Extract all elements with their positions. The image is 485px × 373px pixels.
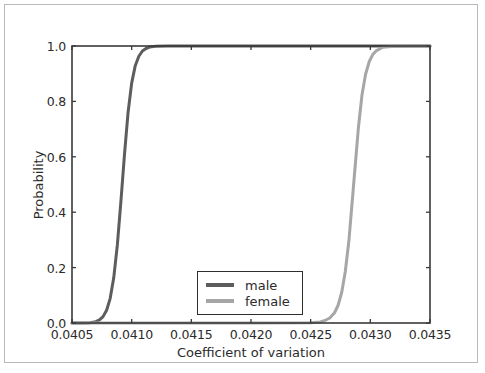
x-tick-label: 0.0435 xyxy=(409,327,452,342)
y-tick-label: 0.8 xyxy=(26,94,66,109)
x-axis-label: Coefficient of variation xyxy=(177,345,325,360)
legend-swatch-male xyxy=(206,283,234,287)
chart-plot-canvas xyxy=(0,0,485,373)
x-tick-label: 0.0410 xyxy=(110,327,153,342)
y-tick-label: 0.2 xyxy=(26,260,66,275)
figure-root: 0.00.20.40.60.81.00.04050.04100.04150.04… xyxy=(0,0,485,373)
legend-swatch-female xyxy=(206,299,234,303)
chart-legend[interactable]: male female xyxy=(197,271,303,315)
legend-label-female: female xyxy=(245,295,290,308)
y-axis-label: Probability xyxy=(31,150,46,219)
x-tick-label: 0.0425 xyxy=(289,327,332,342)
y-tick-label: 1.0 xyxy=(26,39,66,54)
legend-item-female[interactable]: female xyxy=(206,293,293,309)
x-tick-label: 0.0405 xyxy=(51,327,94,342)
x-tick-label: 0.0430 xyxy=(349,327,392,342)
x-tick-label: 0.0415 xyxy=(170,327,213,342)
legend-item-male[interactable]: male xyxy=(206,277,293,293)
x-tick-label: 0.0420 xyxy=(230,327,273,342)
legend-label-male: male xyxy=(245,279,277,292)
